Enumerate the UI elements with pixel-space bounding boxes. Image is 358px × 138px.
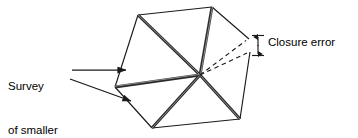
hexagon-edge-lower-right (240, 52, 250, 119)
leader-line-lower (70, 79, 131, 101)
spoke-highlight-2 (201, 7, 213, 75)
spoke-highlight-5 (115, 74, 200, 86)
diagram-container: Survey of smaller areas Closure error (0, 0, 358, 138)
hexagon-edge-bottom (152, 119, 240, 128)
dimension-marker-closure-error (252, 36, 264, 56)
hexagon-edge-top (138, 7, 212, 15)
dashed-ray-lower (200, 53, 247, 75)
hexagon-edge-lower-left (115, 87, 152, 128)
radial-spokes-highlight (115, 7, 241, 129)
survey-of-smaller-areas-label: Survey of smaller areas (8, 50, 58, 138)
spoke-to-left (115, 75, 200, 87)
spoke-highlight-3 (201, 76, 241, 120)
spoke-to-top-right (200, 7, 212, 75)
hexagon-edge-upper-right (212, 7, 249, 39)
closure-error-label: Closure error (268, 35, 335, 50)
hexagon-edge-upper-left (115, 15, 138, 87)
closure-dashed-rays (200, 41, 247, 76)
spoke-highlight-4 (152, 76, 200, 129)
dashed-ray-upper (200, 41, 246, 76)
spoke-highlight-1 (138, 14, 200, 74)
survey-label-line-2: of smaller (8, 123, 58, 138)
survey-label-line-1: Survey (8, 79, 58, 94)
radial-spokes (115, 7, 240, 128)
